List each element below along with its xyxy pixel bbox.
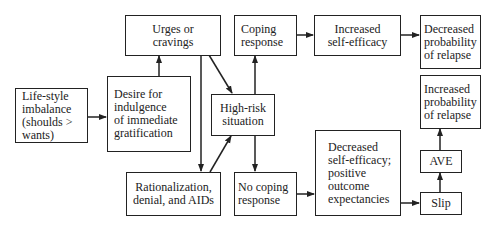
node-increased-self-efficacy: Increased self-efficacy bbox=[314, 15, 401, 56]
node-label: Desire for indulgence of immediate grati… bbox=[114, 88, 178, 140]
node-label: Urges or cravings bbox=[132, 23, 214, 49]
node-decreased-self-efficacy: Decreased self-efficacy; positive outcom… bbox=[315, 130, 401, 216]
arrow-rationalization-to-highrisk bbox=[210, 136, 231, 172]
node-label: Increased probability of relapse bbox=[424, 83, 477, 122]
node-coping-response: Coping response bbox=[234, 15, 297, 56]
node-label: High-risk situation bbox=[220, 102, 266, 128]
node-label: AVE bbox=[429, 155, 452, 168]
node-high-risk-situation: High-risk situation bbox=[211, 94, 275, 136]
node-label: Decreased probability of relapse bbox=[424, 23, 477, 62]
node-slip: Slip bbox=[420, 192, 462, 215]
node-rationalization: Rationalization, denial, and AIDs bbox=[126, 172, 221, 216]
node-no-coping-response: No coping response bbox=[234, 172, 297, 216]
node-desire-for-indulgence: Desire for indulgence of immediate grati… bbox=[107, 76, 191, 152]
node-label: Decreased self-efficacy; positive outcom… bbox=[328, 141, 391, 206]
node-label: Coping response bbox=[241, 23, 283, 49]
node-label: Life-style imbalance (shoulds > wants) bbox=[22, 90, 72, 142]
node-lifestyle-imbalance: Life-style imbalance (shoulds > wants) bbox=[15, 88, 88, 143]
relapse-model-diagram: Life-style imbalance (shoulds > wants) D… bbox=[0, 0, 494, 227]
node-urges-or-cravings: Urges or cravings bbox=[125, 15, 221, 56]
node-label: No coping response bbox=[238, 181, 288, 207]
node-label: Rationalization, denial, and AIDs bbox=[133, 181, 214, 207]
node-ave: AVE bbox=[420, 150, 462, 173]
node-label: Increased self-efficacy bbox=[328, 23, 388, 49]
node-label: Slip bbox=[431, 197, 450, 210]
arrow-urges-to-highrisk bbox=[209, 55, 232, 93]
node-increased-probability-of-relapse: Increased probability of relapse bbox=[420, 75, 481, 129]
node-decreased-probability-of-relapse: Decreased probability of relapse bbox=[420, 15, 481, 69]
